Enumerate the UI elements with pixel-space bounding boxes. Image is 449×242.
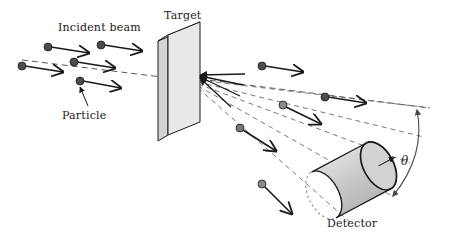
particle-velocity-arrow	[25, 66, 63, 72]
particle-leader	[80, 87, 88, 106]
particle-dot	[70, 58, 78, 66]
particle-dot	[44, 43, 52, 51]
particle-label: Particle	[62, 109, 106, 122]
scattered-particle-5	[258, 180, 292, 214]
incident-particle-5	[76, 77, 121, 88]
scattering-diagram: θ Incident beam Particle Target Detector	[0, 0, 449, 242]
particle-dot	[18, 62, 26, 70]
scattered-particle-3	[279, 101, 321, 124]
particle-dot	[258, 180, 266, 188]
incident-particle-4	[97, 41, 142, 51]
theta-arc	[393, 110, 419, 196]
scattered-particle-1	[258, 62, 303, 72]
detector	[298, 135, 406, 226]
particle-dot	[279, 101, 287, 109]
particle-velocity-arrow	[243, 130, 276, 151]
particle-velocity-arrow	[265, 66, 303, 72]
target-plate	[158, 22, 200, 141]
converging-arrow-4	[200, 78, 231, 107]
scatter-ray-fan	[198, 80, 430, 224]
target-front-face	[168, 22, 200, 135]
scatter-ray-1	[198, 80, 430, 108]
scatter-ray-5	[198, 88, 352, 224]
incident-particle-1	[18, 62, 63, 72]
particle-leader-line	[80, 87, 88, 106]
particle-velocity-arrow	[265, 187, 292, 214]
particle-velocity-arrow	[51, 47, 89, 53]
scatter-ray-2	[198, 82, 424, 137]
particle-dot	[236, 124, 244, 132]
incident-particle-2	[44, 43, 89, 53]
particle-dot	[258, 62, 266, 70]
particle-dot	[321, 93, 329, 101]
diagram-canvas: θ Incident beam Particle Target Detector	[0, 0, 449, 242]
converging-arrow-1	[200, 74, 245, 75]
theta-angle-indicator: θ	[393, 110, 419, 196]
particle-velocity-arrow	[286, 107, 321, 124]
theta-label: θ	[401, 154, 409, 168]
target-label: Target	[164, 9, 202, 22]
particle-velocity-arrow	[83, 81, 121, 88]
detector-label: Detector	[327, 217, 378, 230]
particle-dot	[76, 77, 84, 85]
particle-velocity-arrow	[104, 45, 142, 51]
incident-particles-group	[18, 41, 142, 88]
incident-beam-label: Incident beam	[58, 21, 141, 34]
target-side-edge	[158, 35, 168, 141]
particle-dot	[97, 41, 105, 49]
scattered-particle-4	[236, 124, 276, 151]
diagram-labels: Incident beam Particle Target Detector	[58, 9, 378, 230]
